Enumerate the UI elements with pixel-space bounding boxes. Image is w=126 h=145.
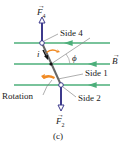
rotation-label: Rotation xyxy=(2,92,33,101)
current-i-label: i xyxy=(37,50,40,59)
side4-label: Side 4 xyxy=(60,29,83,38)
side2-label: Side 2 xyxy=(78,94,101,103)
magnetic-field-lines xyxy=(14,41,110,87)
pivot-point-icon xyxy=(49,62,52,65)
force-f4-label: →F4 xyxy=(37,8,46,19)
side4-point-icon xyxy=(40,41,45,46)
force-arrow-bottom-icon xyxy=(58,87,64,111)
angle-arc-icon xyxy=(66,54,70,64)
force-arrow-top-icon xyxy=(39,17,45,41)
figure-caption: (c) xyxy=(53,132,63,141)
force-f2-label: →F2 xyxy=(56,117,65,128)
side2-point-icon xyxy=(59,83,64,88)
field-b-label: →B xyxy=(112,57,118,66)
side1-label: Side 1 xyxy=(85,69,108,78)
angle-phi-label: ϕ xyxy=(72,54,77,63)
